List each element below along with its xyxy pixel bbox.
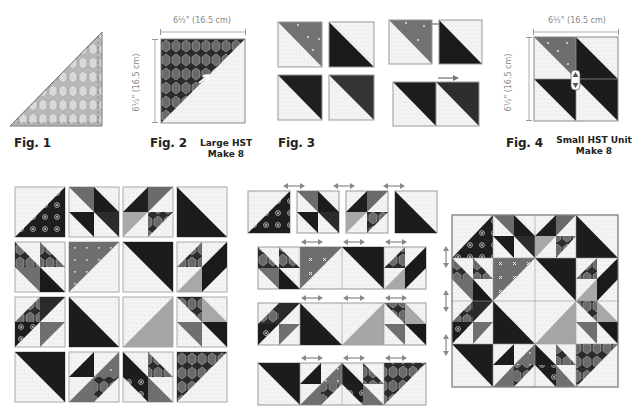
finished-block-quilt: [452, 215, 618, 387]
press-arrows-row4: [301, 355, 407, 361]
row4-joined: [258, 363, 426, 405]
fig4-small-hst-unit: [534, 37, 618, 121]
row1-units: [248, 191, 437, 233]
fig3-hst-units: [278, 20, 488, 125]
fig2-height-dimension-line: [152, 39, 158, 125]
unit-r3c1: [15, 297, 65, 347]
fig4-width-dimension-line: [533, 29, 621, 35]
fig2-height-label: 6½" (16.5 cm): [132, 54, 141, 112]
fig4-height-dimension-line: [526, 37, 532, 123]
fig3-unit-black-2: [278, 75, 322, 120]
fig2-caption: Fig. 2: [150, 136, 187, 150]
fig3-press-arrow-right: [438, 75, 459, 81]
fig3-unit-gray-pair-left: [389, 20, 432, 64]
unit-r4c3: [123, 352, 173, 402]
fig3-unit-black: [329, 22, 374, 67]
fig2-subcaption: Large HST Make 8: [196, 138, 256, 160]
fig2-large-hst-block: [161, 39, 245, 123]
fig1-triangle-illustration: [8, 28, 108, 128]
finished-block: [440, 215, 630, 390]
row3-joined: [258, 303, 426, 345]
unit-r2c2: [69, 242, 119, 292]
fig3-unit-gray-print: [278, 22, 322, 67]
fig3-joined-pair: [393, 82, 479, 126]
fig2-width-dimension-line: [160, 29, 248, 35]
unit-r4c1: [15, 352, 65, 402]
fig4-width-label: 6½" (16.5 cm): [548, 16, 606, 25]
fig4-subcaption-line1: Small HST Unit: [552, 135, 635, 146]
fig4-subcaption: Small HST Unit Make 8: [552, 135, 635, 157]
vertical-press-arrows: [443, 246, 449, 356]
fig1-caption: Fig. 1: [14, 136, 51, 150]
fig3-unit-charcoal: [329, 75, 374, 120]
row-assembly-diagram: [248, 183, 438, 413]
unit-r1c2: [69, 187, 119, 237]
fig2-subcaption-line1: Large HST: [196, 138, 256, 149]
fig2-width-label: 6½" (16.5 cm): [173, 16, 231, 25]
unit-r3c4: [177, 297, 227, 347]
unit-r2c1: [15, 242, 65, 292]
unit-r3c2: [69, 297, 119, 347]
unit-r4c4: [177, 352, 227, 402]
unit-r3c3: [123, 297, 173, 347]
unit-r1c4: [177, 187, 227, 237]
unit-r1c1: [15, 187, 65, 237]
block-layout-grid: [15, 187, 229, 405]
fig4-height-label: 6½" (16.5 cm): [504, 54, 513, 112]
press-arrows-row3: [301, 295, 407, 301]
unit-r4c2: [69, 352, 119, 402]
unit-r1c3: [123, 187, 173, 237]
press-arrows-row1: [283, 183, 405, 189]
fig3-caption: Fig. 3: [278, 136, 315, 150]
fig4-caption: Fig. 4: [506, 136, 543, 150]
press-arrows-row2: [301, 239, 407, 245]
fig3-unit-black-pair-right: [439, 20, 482, 64]
fig2-subcaption-line2: Make 8: [196, 149, 256, 160]
unit-r2c3: [123, 242, 173, 292]
fig4-subcaption-line2: Make 8: [552, 146, 635, 157]
row2-joined: [258, 247, 426, 289]
unit-r2c4: [177, 242, 227, 292]
